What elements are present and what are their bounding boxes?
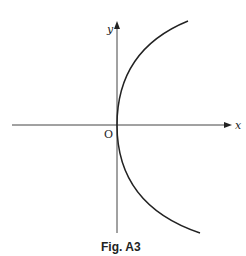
origin-label: O	[104, 128, 113, 141]
x-axis-arrow-icon	[224, 122, 232, 128]
y-axis-arrow-icon	[114, 21, 120, 29]
x-axis-label: x	[235, 119, 242, 132]
parabola-curve	[117, 21, 200, 233]
figure-canvas: y x O Fig. A3	[0, 0, 246, 256]
y-axis-label: y	[106, 23, 114, 36]
figure-caption: Fig. A3	[101, 240, 141, 254]
